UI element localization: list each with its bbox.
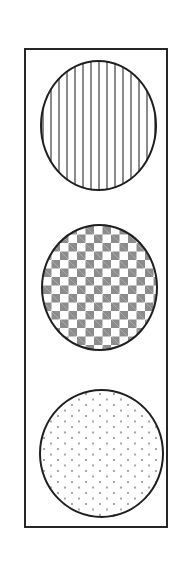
traffic-light-housing [24,48,168,528]
figure-canvas [0,0,191,585]
lamp-bottom-dots [39,389,164,518]
lamp-top-vertical-lines [40,60,157,191]
lamp-middle-checkerboard [41,224,158,351]
